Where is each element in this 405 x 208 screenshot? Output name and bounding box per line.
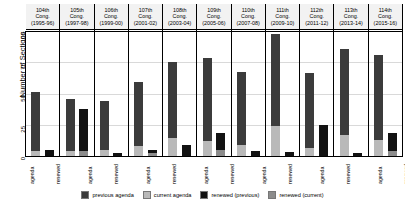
bar-agenda[interactable] bbox=[66, 99, 75, 156]
bar-agenda[interactable] bbox=[100, 101, 109, 156]
legend-swatch-icon bbox=[81, 191, 89, 199]
bar-renewed[interactable] bbox=[285, 152, 294, 156]
facet-panel-header: 114thCong.(2015-16) bbox=[369, 4, 402, 30]
facet-label-line-3: (2003-04) bbox=[168, 20, 191, 26]
bar-group bbox=[334, 31, 367, 156]
bar-agenda[interactable] bbox=[203, 58, 212, 156]
bar-group bbox=[197, 31, 230, 156]
x-axis-tick-labels: agendarenewedagendarenewedagendareneweda… bbox=[26, 158, 403, 185]
facet-panel-106th: 106thCong.(1999-00) bbox=[95, 4, 129, 157]
bar-segment-prev bbox=[100, 101, 109, 150]
facet-label-line-3: (2001-02) bbox=[134, 20, 157, 26]
x-tick-label-renewed: renewed bbox=[113, 158, 121, 184]
bar-agenda[interactable] bbox=[340, 49, 349, 156]
facet-panels: 104thCong.(1995-96)105thCong.(1997-98)10… bbox=[26, 4, 403, 157]
bar-segment-curr bbox=[305, 148, 314, 156]
bar-renewed[interactable] bbox=[216, 133, 225, 156]
facet-label-line-3: (2005-06) bbox=[202, 20, 225, 26]
bar-segment-curr bbox=[100, 150, 109, 156]
bar-agenda[interactable] bbox=[168, 62, 177, 156]
chart-legend: previous agendacurrent agendarenewed (pr… bbox=[0, 188, 405, 202]
bar-renewed[interactable] bbox=[79, 109, 88, 156]
x-tick-label-agenda: agenda bbox=[29, 158, 37, 184]
chart-root: Number of Sections 0 25 50 75 100 104thC… bbox=[0, 0, 405, 208]
bar-renewed[interactable] bbox=[148, 150, 157, 156]
plot-area bbox=[369, 31, 402, 157]
plot-area bbox=[26, 31, 59, 157]
bar-segment-rcurr bbox=[148, 153, 157, 156]
facet-panel-header: 112thCong.(2011-12) bbox=[300, 4, 333, 30]
facet-panel-header: 106thCong.(1999-00) bbox=[95, 4, 128, 30]
bar-group bbox=[26, 31, 59, 156]
facet-panel-header: 113thCong.(2013-14) bbox=[334, 4, 367, 30]
bar-renewed[interactable] bbox=[353, 153, 362, 156]
bar-segment-prev bbox=[203, 58, 212, 141]
facet-panel-113th: 113thCong.(2013-14) bbox=[334, 4, 368, 157]
x-tick-label-agenda: agenda bbox=[87, 158, 95, 184]
x-tick-group: agendarenewed bbox=[26, 158, 84, 185]
bar-segment-prev bbox=[237, 72, 246, 145]
legend-swatch-icon bbox=[268, 191, 276, 199]
facet-label-line-3: (1995-96) bbox=[31, 20, 54, 26]
facet-panel-header: 108thCong.(2003-04) bbox=[163, 4, 196, 30]
facet-label-line-3: (2007-08) bbox=[237, 20, 260, 26]
bar-segment-prev bbox=[66, 99, 75, 151]
bar-segment-prev bbox=[31, 92, 40, 151]
bar-segment-rprev bbox=[45, 150, 54, 156]
bar-segment-rprev bbox=[182, 145, 191, 156]
bar-segment-prev bbox=[134, 82, 143, 146]
bar-group bbox=[129, 31, 162, 156]
bar-segment-rcurr bbox=[216, 150, 225, 156]
x-tick-group: agendarenewed bbox=[200, 158, 258, 185]
facet-panel-114th: 114thCong.(2015-16) bbox=[369, 4, 403, 157]
bar-renewed[interactable] bbox=[45, 150, 54, 156]
legend-item-rcurr: renewed (current) bbox=[268, 191, 323, 199]
facet-panel-112th: 112thCong.(2011-12) bbox=[300, 4, 334, 157]
facet-panel-109th: 109thCong.(2005-06) bbox=[197, 4, 231, 157]
bar-agenda[interactable] bbox=[31, 92, 40, 156]
bar-group bbox=[266, 31, 299, 156]
plot-area bbox=[197, 31, 230, 157]
facet-label-line-3: (2009-10) bbox=[271, 20, 294, 26]
plot-area bbox=[300, 31, 333, 157]
x-tick-label-renewed: renewed bbox=[55, 158, 63, 184]
bar-group bbox=[369, 31, 402, 156]
bar-agenda[interactable] bbox=[134, 82, 143, 156]
bar-agenda[interactable] bbox=[271, 34, 280, 156]
bar-segment-rprev bbox=[216, 133, 225, 149]
x-tick-label-agenda: agenda bbox=[261, 158, 269, 184]
bar-segment-rprev bbox=[285, 152, 294, 156]
bar-agenda[interactable] bbox=[305, 73, 314, 156]
plot-area bbox=[334, 31, 367, 157]
bar-renewed[interactable] bbox=[251, 151, 260, 156]
x-tick-label-renewed: renewed bbox=[287, 158, 295, 184]
bar-segment-curr bbox=[168, 138, 177, 156]
bar-renewed[interactable] bbox=[388, 133, 397, 156]
facet-panel-108th: 108thCong.(2003-04) bbox=[163, 4, 197, 157]
bar-agenda[interactable] bbox=[237, 72, 246, 156]
facet-panel-111th: 111thCong.(2009-10) bbox=[266, 4, 300, 157]
bar-renewed[interactable] bbox=[182, 145, 191, 156]
bar-segment-prev bbox=[305, 73, 314, 149]
plot-area bbox=[129, 31, 162, 157]
bar-agenda[interactable] bbox=[374, 55, 383, 156]
bar-segment-curr bbox=[237, 145, 246, 156]
plot-area bbox=[266, 31, 299, 157]
facet-panel-header: 109thCong.(2005-06) bbox=[197, 4, 230, 30]
legend-swatch-icon bbox=[200, 191, 208, 199]
bar-renewed[interactable] bbox=[113, 153, 122, 156]
plot-area bbox=[60, 31, 93, 157]
bar-segment-rprev bbox=[319, 125, 328, 157]
facet-label-line-3: (1999-00) bbox=[99, 20, 122, 26]
bar-segment-rprev bbox=[251, 151, 260, 156]
legend-label: previous agenda bbox=[92, 192, 133, 198]
facet-panel-105th: 105thCong.(1997-98) bbox=[60, 4, 94, 157]
bar-segment-rprev bbox=[79, 109, 88, 151]
facet-panel-header: 111thCong.(2009-10) bbox=[266, 4, 299, 30]
legend-item-rprev: renewed (previous) bbox=[200, 191, 259, 199]
legend-label: current agenda bbox=[154, 192, 192, 198]
bar-renewed[interactable] bbox=[319, 125, 328, 157]
legend-label: renewed (previous) bbox=[211, 192, 259, 198]
bar-segment-curr bbox=[66, 151, 75, 156]
bar-segment-curr bbox=[374, 140, 383, 156]
